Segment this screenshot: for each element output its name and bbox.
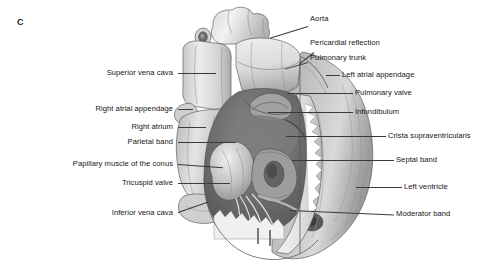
label-septal-band: Septal band xyxy=(396,155,437,164)
label-papillary-muscle-of-the-conus: Papillary muscle of the conus xyxy=(73,159,173,168)
leader-infundibulum xyxy=(268,112,353,113)
label-superior-vena-cava: Superior vena cava xyxy=(107,68,173,77)
label-pulmonary-valve: Pulmonary valve xyxy=(355,88,412,97)
label-right-atrial-appendage: Right atrial appendage xyxy=(95,104,173,113)
label-right-atrium: Right atrium xyxy=(131,122,173,131)
label-inferior-vena-cava: Inferior vena cava xyxy=(112,208,173,217)
leader-crista-supraventricularis xyxy=(286,136,386,137)
leader-septal-band xyxy=(292,160,394,161)
panel-letter: C xyxy=(17,17,24,27)
leader-superior-vena-cava xyxy=(178,73,216,74)
leader-left-ventricle xyxy=(356,187,402,188)
label-crista-supraventricularis: Crista supraventricularis xyxy=(388,131,471,140)
leader-parietal-band xyxy=(178,142,236,143)
label-infundibulum: Infundibulum xyxy=(355,107,399,116)
label-parietal-band: Parietal band xyxy=(128,137,173,146)
leader-pulmonary-valve xyxy=(288,93,353,94)
leader-right-atrium xyxy=(178,127,206,128)
label-left-atrial-appendage: Left atrial appendage xyxy=(342,70,414,79)
figure-panel: C Superior vena cava Right atrial append… xyxy=(0,0,498,269)
label-tricuspid-valve: Tricuspid valve xyxy=(122,178,173,187)
leader-right-atrial-appendage xyxy=(178,109,193,110)
label-left-ventricle: Left ventricle xyxy=(404,182,448,191)
label-pericardial-reflection: Pericardial reflection xyxy=(310,38,380,47)
leader-left-atrial-appendage xyxy=(326,75,340,76)
label-pulmonary-trunk: Pulmonary trunk xyxy=(310,53,366,62)
leader-tricuspid-valve xyxy=(178,183,230,184)
label-aorta: Aorta xyxy=(310,14,328,23)
label-moderator-band: Moderator band xyxy=(396,209,450,218)
